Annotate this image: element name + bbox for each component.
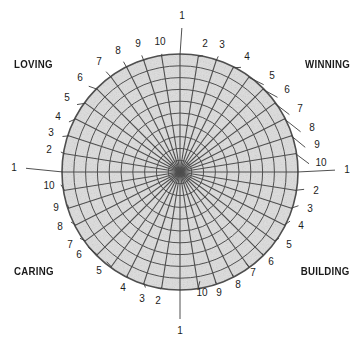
axis-number-14: 5 xyxy=(286,240,292,250)
axis-number-34: 5 xyxy=(64,93,70,103)
axis-number-25: 6 xyxy=(76,250,82,260)
axis-number-2: 3 xyxy=(219,40,225,50)
axis-number-29: 10 xyxy=(43,181,54,191)
polar-wheel-svg xyxy=(0,0,362,351)
axis-number-13: 4 xyxy=(298,221,304,231)
axis-number-33: 4 xyxy=(55,112,61,122)
axis-number-21: 2 xyxy=(155,296,161,306)
axis-number-8: 9 xyxy=(314,140,320,150)
axis-number-19: 10 xyxy=(196,288,207,298)
axis-number-6: 7 xyxy=(297,104,303,114)
axis-number-1: 2 xyxy=(202,39,208,49)
axis-number-30: 1 xyxy=(11,163,17,173)
axis-number-16: 7 xyxy=(250,268,256,278)
quadrant-label-building: BUILDING xyxy=(301,265,350,277)
axis-number-26: 7 xyxy=(67,240,73,250)
axis-number-32: 3 xyxy=(48,128,54,138)
diagram-canvas: LOVING WINNING CARING BUILDING 123456789… xyxy=(0,0,362,351)
axis-number-38: 9 xyxy=(135,39,141,49)
axis-number-17: 8 xyxy=(235,280,241,290)
axis-number-3: 4 xyxy=(244,52,250,62)
axis-number-15: 6 xyxy=(268,257,274,267)
axis-number-39: 10 xyxy=(154,37,165,47)
axis-number-37: 8 xyxy=(115,46,121,56)
axis-number-27: 8 xyxy=(57,222,63,232)
axis-number-28: 9 xyxy=(53,203,59,213)
axis-number-24: 5 xyxy=(96,266,102,276)
quadrant-label-winning: WINNING xyxy=(305,58,350,70)
axis-number-11: 2 xyxy=(313,186,319,196)
axis-number-9: 10 xyxy=(315,158,326,168)
axis-number-4: 5 xyxy=(269,71,275,81)
axis-number-23: 4 xyxy=(120,283,126,293)
quadrant-label-caring: CARING xyxy=(14,265,54,277)
axis-number-0: 1 xyxy=(179,11,185,21)
axis-number-36: 7 xyxy=(96,57,102,67)
axis-number-7: 8 xyxy=(309,123,315,133)
axis-number-10: 1 xyxy=(344,165,350,175)
axis-number-5: 6 xyxy=(284,85,290,95)
axis-number-22: 3 xyxy=(139,294,145,304)
axis-number-20: 1 xyxy=(177,326,183,336)
axis-number-35: 6 xyxy=(77,73,83,83)
axis-number-12: 3 xyxy=(307,204,313,214)
quadrant-label-loving: LOVING xyxy=(14,58,53,70)
axis-number-31: 2 xyxy=(46,145,52,155)
axis-number-18: 9 xyxy=(216,288,222,298)
